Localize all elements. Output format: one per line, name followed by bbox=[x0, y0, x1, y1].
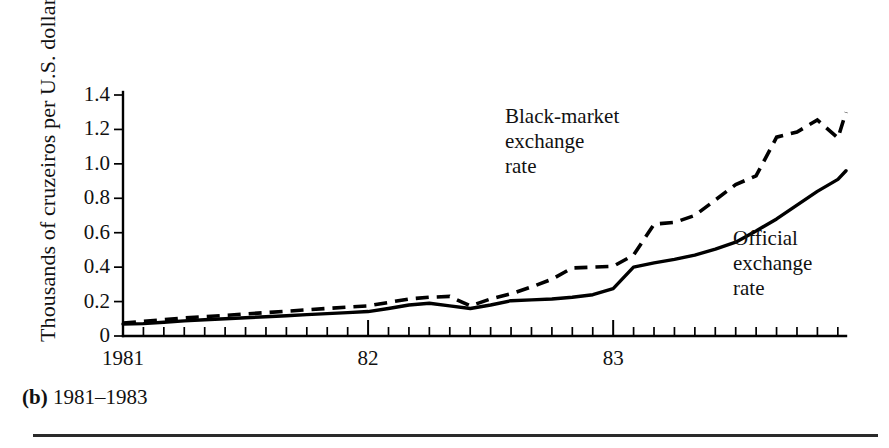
x-tick-label: 1981 bbox=[63, 348, 183, 369]
figure-caption: (b) 1981–1983 bbox=[22, 385, 147, 409]
chart-canvas bbox=[0, 0, 889, 448]
y-tick-label: 1.4 bbox=[30, 84, 110, 105]
caption-text: 1981–1983 bbox=[53, 385, 148, 409]
y-tick-label: 0.6 bbox=[30, 222, 110, 243]
x-tick-label: 83 bbox=[553, 348, 673, 369]
caption-tag: (b) bbox=[22, 385, 48, 409]
bottom-rule bbox=[33, 434, 878, 437]
y-tick-label: 1.2 bbox=[30, 118, 110, 139]
y-tick-label: 0.4 bbox=[30, 256, 110, 277]
annotation-black-market-line-1: Black-market bbox=[505, 104, 619, 129]
annotation-official-line-3: rate bbox=[733, 276, 812, 301]
annotation-black-market-line-3: rate bbox=[505, 154, 619, 179]
annotation-official-line-2: exchange bbox=[733, 251, 812, 276]
x-tick-label: 82 bbox=[308, 348, 428, 369]
annotation-official: Official exchange rate bbox=[733, 226, 812, 301]
y-tick-label: 0.8 bbox=[30, 187, 110, 208]
y-tick-label: 0 bbox=[30, 325, 110, 346]
figure-panel: Thousands of cruzeiros per U.S. dollar 1… bbox=[0, 0, 889, 448]
annotation-black-market: Black-market exchange rate bbox=[505, 104, 619, 179]
annotation-official-line-1: Official bbox=[733, 226, 812, 251]
y-axis-ticks bbox=[114, 95, 123, 336]
x-axis-ticks bbox=[123, 320, 838, 336]
annotation-black-market-line-2: exchange bbox=[505, 129, 619, 154]
y-tick-label: 1.0 bbox=[30, 153, 110, 174]
y-tick-label: 0.2 bbox=[30, 291, 110, 312]
